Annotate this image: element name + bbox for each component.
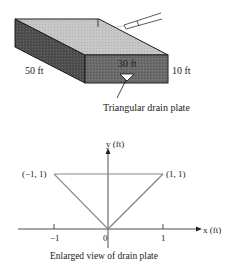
tank-illustration: 50 ft 30 ft 10 ft Triangular drain plate — [15, 13, 191, 113]
point-right-label: (1, 1) — [166, 169, 186, 179]
y-axis-label: y (ft) — [106, 139, 124, 149]
plate-coordinate-view: y (ft) x (ft) (−1, 1) (1, 1) −1 0 1 Enla… — [18, 139, 221, 261]
fill-pipe-icon — [124, 13, 162, 29]
tick-neg1-label: −1 — [50, 233, 60, 243]
plate-triangle — [54, 174, 163, 229]
x-axis-arrow-icon — [196, 227, 202, 232]
drain-plate-diagram: 50 ft 30 ft 10 ft Triangular drain plate… — [0, 0, 226, 272]
plate-label: Triangular drain plate — [103, 102, 190, 113]
width-label: 30 ft — [118, 58, 137, 69]
x-axis-label: x (ft) — [203, 225, 221, 235]
tick-1-label: 1 — [161, 233, 166, 243]
point-left-label: (−1, 1) — [22, 169, 47, 179]
caption: Enlarged view of drain plate — [50, 251, 158, 261]
length-label: 50 ft — [25, 65, 44, 76]
depth-label: 10 ft — [172, 65, 191, 76]
tick-0-label: 0 — [103, 233, 108, 243]
